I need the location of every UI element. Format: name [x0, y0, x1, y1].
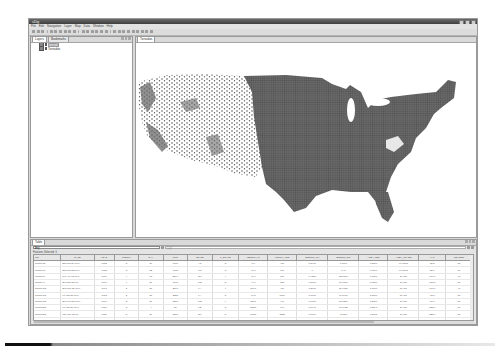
main-toolbar	[29, 29, 477, 36]
map-panel: Tornados	[135, 36, 477, 238]
horizontal-scrollbar[interactable]	[33, 321, 474, 324]
info-icon[interactable]	[105, 30, 108, 33]
maximize-view-icon[interactable]	[472, 240, 475, 243]
tornado-points-map	[136, 42, 477, 238]
select-icon[interactable]	[113, 30, 116, 33]
forward-icon[interactable]	[145, 30, 148, 33]
attribute-table: FID DATE YEAR MONTH DAY UTC STATE F_SCAL…	[33, 254, 474, 321]
delete-icon[interactable]	[73, 30, 76, 33]
refresh-icon[interactable]	[100, 30, 103, 33]
undo-icon[interactable]	[50, 30, 53, 33]
paste-icon[interactable]	[68, 30, 71, 33]
new-icon[interactable]	[32, 30, 35, 33]
save-icon[interactable]	[37, 30, 40, 33]
print-icon[interactable]	[41, 30, 44, 33]
point-layer-icon	[45, 47, 47, 49]
toolbar-separator	[47, 30, 48, 33]
western-points-region	[138, 74, 262, 177]
toolbar-separator	[78, 30, 79, 33]
copy-icon[interactable]	[64, 30, 67, 33]
cut-icon[interactable]	[59, 30, 62, 33]
zoom-out-icon[interactable]	[86, 30, 89, 33]
view-menu-icon[interactable]	[121, 37, 124, 40]
add-point-icon[interactable]	[122, 30, 125, 33]
layer-visibility-checkbox[interactable]	[39, 46, 44, 51]
minimize-view-icon[interactable]	[125, 37, 128, 40]
tab-layers[interactable]: Layers	[32, 36, 47, 41]
layers-tabstrip: Layers Bookmarks	[31, 37, 132, 43]
tab-bookmarks[interactable]: Bookmarks	[48, 36, 69, 41]
layer-label: Tornados	[48, 47, 60, 51]
apply-filter-icon[interactable]	[467, 246, 470, 249]
add-polygon-icon[interactable]	[132, 30, 135, 33]
attribute-filter-select[interactable]: Any	[33, 246, 160, 249]
eastern-points-region	[244, 75, 456, 212]
run-icon[interactable]	[150, 30, 153, 33]
tab-table[interactable]: Table	[32, 239, 45, 244]
pan-icon[interactable]	[91, 30, 94, 33]
table-view-buttons	[465, 240, 475, 243]
measure-icon[interactable]	[136, 30, 139, 33]
view-buttons	[121, 37, 131, 40]
redo-icon[interactable]	[54, 30, 57, 33]
cql-expression-input[interactable]: CQL	[165, 246, 466, 249]
filter-row: Any CQL	[33, 246, 474, 250]
view-menu-icon[interactable]	[465, 240, 468, 243]
zoom-extent-icon[interactable]	[95, 30, 98, 33]
zoom-in-icon[interactable]	[82, 30, 85, 33]
window-title: uDig	[32, 20, 39, 24]
map-canvas[interactable]	[136, 42, 476, 237]
maximize-view-icon[interactable]	[128, 37, 131, 40]
table-panel: Table Any CQL Features Selected: 0	[30, 239, 477, 325]
point-layer-icon	[45, 43, 47, 45]
back-icon[interactable]	[141, 30, 144, 33]
minimize-view-icon[interactable]	[469, 240, 472, 243]
scrollbar-thumb[interactable]	[34, 321, 374, 323]
layer-item[interactable]: Tornados	[31, 47, 132, 51]
clear-filter-icon[interactable]	[471, 246, 474, 249]
udig-window: uDig File Edit Navigation Layer Map Data…	[28, 18, 478, 326]
vertical-scrollbar[interactable]	[470, 255, 473, 320]
dropdown-icon[interactable]	[161, 246, 164, 249]
layers-panel: Layers Bookmarks tornad Tornados	[30, 36, 133, 238]
edit-icon[interactable]	[118, 30, 121, 33]
add-line-icon[interactable]	[127, 30, 130, 33]
toolbar-separator	[110, 30, 111, 33]
table-body: tornad.12Sat Mar 29 00:0..19523291900AR3…	[34, 261, 473, 321]
